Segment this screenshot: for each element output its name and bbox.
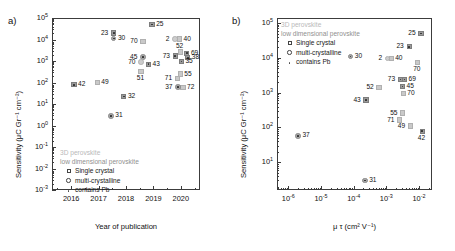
- data-point-label-30: 30: [355, 52, 362, 59]
- tick-mark: [52, 55, 54, 56]
- data-point-label-49: 49: [101, 78, 108, 85]
- dot-icon: [286, 57, 293, 66]
- legend-heading-low-dimensional-perovskite: low dimensional perovskite: [60, 157, 139, 166]
- data-point-label-23: 23: [396, 42, 403, 49]
- data-point-label-70: 70: [407, 89, 414, 96]
- panel-a-y-tick--3: 10-3: [14, 185, 48, 194]
- tick-mark: [52, 21, 54, 22]
- tick-mark: [52, 86, 54, 87]
- panel-a-y-tick-2: 102: [14, 78, 48, 87]
- data-point-23: [407, 44, 412, 49]
- tick-mark: [277, 164, 279, 165]
- panel-b-x-tick--4: 10-4: [338, 194, 370, 203]
- tick-mark: [277, 162, 281, 163]
- data-point-label-70: 70: [130, 37, 137, 44]
- tick-mark: [52, 107, 54, 108]
- data-point-70: [401, 91, 406, 96]
- data-point-35: [179, 59, 184, 64]
- legend-item-multi-crystalline: multi-crystalline: [65, 176, 139, 185]
- tick-mark: [52, 67, 54, 68]
- tick-mark: [52, 104, 56, 105]
- tick-mark: [52, 42, 54, 43]
- tick-mark: [277, 135, 279, 136]
- tick-mark: [52, 169, 56, 170]
- tick-mark: [52, 46, 54, 47]
- data-point-label-31: 31: [369, 176, 376, 183]
- tick-mark: [386, 186, 387, 190]
- tick-mark: [337, 188, 338, 190]
- legend-label-contains-pb: contains Pb: [75, 185, 109, 194]
- tick-mark: [167, 188, 168, 190]
- tick-mark: [52, 43, 54, 44]
- legend-item-contains-pb: contains Pb: [65, 185, 139, 194]
- tick-mark: [298, 188, 299, 190]
- tick-mark: [277, 37, 279, 38]
- tick-mark: [277, 103, 279, 104]
- tick-mark: [277, 141, 279, 142]
- panel-b-y-tick-5: 105: [239, 18, 273, 27]
- tick-mark: [308, 188, 309, 190]
- tick-mark: [277, 152, 279, 153]
- tick-mark: [277, 68, 279, 69]
- tick-mark: [277, 66, 279, 67]
- tick-mark: [277, 107, 279, 108]
- tick-mark: [52, 134, 54, 135]
- tick-mark: [52, 172, 54, 173]
- tick-mark: [52, 91, 54, 92]
- tick-mark: [369, 188, 370, 190]
- data-point-51: [138, 69, 143, 74]
- tick-mark: [409, 188, 410, 190]
- tick-mark: [52, 48, 54, 49]
- tick-mark: [52, 62, 54, 63]
- tick-mark: [52, 156, 54, 157]
- tick-mark: [354, 186, 355, 190]
- tick-mark: [346, 188, 347, 190]
- tick-mark: [52, 83, 56, 84]
- tick-mark: [277, 31, 279, 32]
- tick-mark: [277, 26, 279, 27]
- data-point-label-40: 40: [395, 54, 402, 61]
- tick-mark: [381, 188, 382, 190]
- tick-mark: [383, 188, 384, 190]
- data-point-label-70: 70: [128, 58, 135, 65]
- tick-mark: [52, 33, 54, 34]
- data-point-31: [362, 178, 368, 184]
- tick-mark: [277, 34, 279, 35]
- tick-mark: [52, 76, 54, 77]
- tick-mark: [277, 166, 279, 167]
- data-point-label-52: 52: [176, 42, 183, 49]
- tick-mark: [277, 127, 281, 128]
- tick-mark: [52, 153, 54, 154]
- data-point-32: [121, 94, 126, 99]
- panel-b-x-tick--6: 10-6: [272, 194, 304, 203]
- panel-b-x-tick--3: 10-3: [370, 194, 402, 203]
- data-point-31: [108, 113, 114, 119]
- tick-mark: [341, 188, 342, 190]
- panel-a-x-axis-title: Year of publication: [52, 222, 200, 231]
- data-point-25: [149, 22, 154, 27]
- panel-a-y-tick-5: 105: [14, 13, 48, 22]
- tick-mark: [277, 82, 279, 83]
- data-point-70: [140, 39, 145, 44]
- tick-mark: [52, 162, 54, 163]
- legend-label-single-crystal: Single crystal: [296, 38, 335, 47]
- tick-mark: [277, 61, 279, 62]
- tick-mark: [363, 188, 364, 190]
- tick-mark: [52, 147, 56, 148]
- tick-mark: [52, 148, 54, 149]
- data-point-42: [420, 129, 425, 134]
- data-point-label-72: 72: [187, 83, 194, 90]
- tick-mark: [277, 100, 279, 101]
- tick-mark: [277, 96, 279, 97]
- tick-mark: [373, 188, 374, 190]
- tick-mark: [52, 177, 54, 178]
- tick-mark: [278, 188, 279, 190]
- tick-mark: [52, 141, 54, 142]
- legend-label-contains-pb: contains Pb: [296, 57, 330, 66]
- data-point-label-43: 43: [153, 60, 160, 67]
- tick-mark: [285, 188, 286, 190]
- tick-mark: [52, 63, 54, 64]
- tick-mark: [181, 186, 182, 190]
- dot-icon: [65, 185, 72, 194]
- tick-mark: [52, 184, 54, 185]
